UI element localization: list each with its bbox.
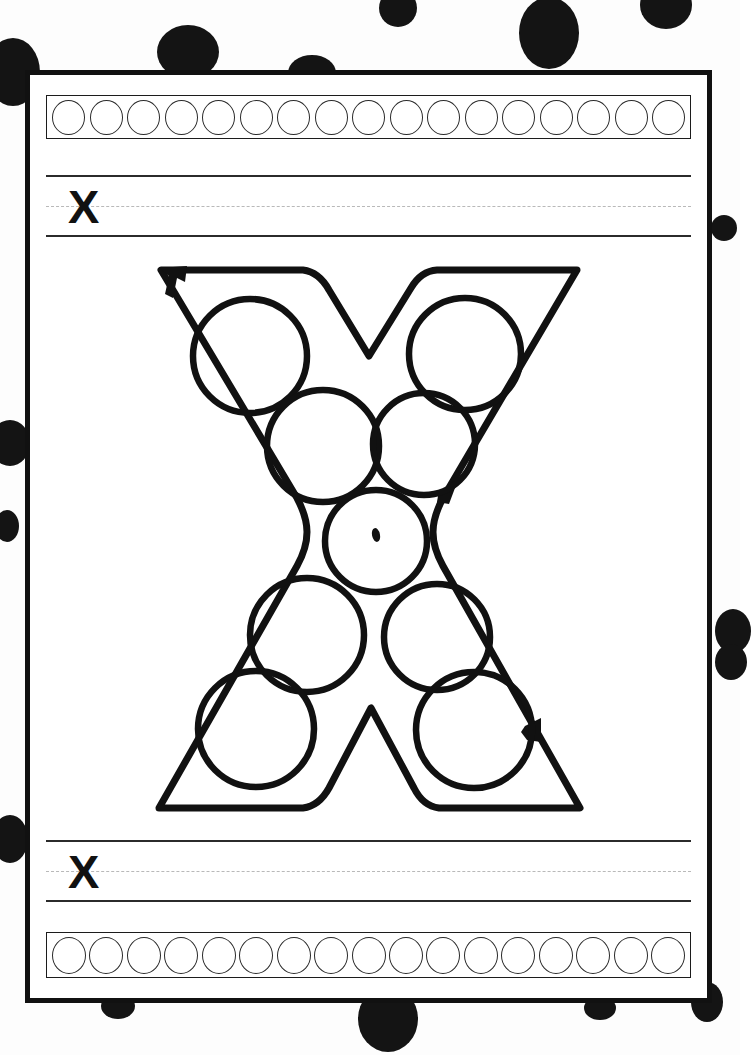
guideline-dashed-mid-bottom <box>46 871 691 872</box>
practice-dot-circle <box>577 100 610 135</box>
background-dot <box>0 815 28 863</box>
practice-dot-circle <box>240 100 273 135</box>
letter-dot-bottom-right-leg <box>416 672 532 788</box>
practice-dot-circle <box>502 100 535 135</box>
handwriting-line-bottom: X <box>46 840 691 902</box>
guideline-solid-top-bottom <box>46 840 691 842</box>
worksheet-sheet: X X <box>25 70 712 1003</box>
practice-dot-circle <box>127 937 161 974</box>
practice-dot-circle <box>165 100 198 135</box>
guideline-dashed-mid-top <box>46 206 691 207</box>
big-letter-X-outline <box>46 253 691 828</box>
background-dot <box>715 644 747 680</box>
guideline-solid-top <box>46 175 691 177</box>
practice-dot-circle <box>539 937 573 974</box>
practice-dot-circle <box>277 937 311 974</box>
guideline-solid-baseline-bottom <box>46 900 691 902</box>
practice-dot-circle <box>202 100 235 135</box>
practice-dot-circle <box>576 937 610 974</box>
practice-dot-circle <box>52 100 85 135</box>
practice-dot-circle <box>651 937 685 974</box>
letter-dot-mid-upper-left <box>267 390 379 502</box>
practice-dot-circle <box>277 100 310 135</box>
handwriting-letter-top: X <box>68 183 99 230</box>
practice-dot-circle <box>127 100 160 135</box>
background-dot <box>379 0 417 27</box>
practice-dot-circle <box>427 100 460 135</box>
practice-dot-circle <box>352 100 385 135</box>
dot-practice-strip-top <box>46 95 691 139</box>
background-dot <box>0 510 19 542</box>
background-dot <box>640 0 692 29</box>
practice-dot-circle <box>315 100 348 135</box>
practice-dot-circle <box>614 937 648 974</box>
practice-dot-circle <box>314 937 348 974</box>
dot-practice-strip-bottom <box>46 932 691 978</box>
guideline-solid-baseline-top <box>46 235 691 237</box>
practice-dot-circle <box>164 937 198 974</box>
practice-dot-circle <box>239 937 273 974</box>
letter-dot-bottom-left-leg <box>198 671 314 787</box>
practice-dot-circle <box>465 100 498 135</box>
practice-dot-circle <box>389 937 423 974</box>
background-dot <box>519 0 579 69</box>
practice-dot-circle <box>615 100 648 135</box>
practice-dot-circle <box>426 937 460 974</box>
practice-dot-circle <box>464 937 498 974</box>
practice-dot-circle <box>652 100 685 135</box>
practice-dot-circle <box>52 937 86 974</box>
practice-dot-circle <box>540 100 573 135</box>
practice-dot-circle <box>501 937 535 974</box>
practice-dot-circle <box>89 937 123 974</box>
practice-dot-circle <box>390 100 423 135</box>
background-dot <box>711 215 737 241</box>
practice-dot-circle <box>352 937 386 974</box>
handwriting-letter-bottom: X <box>68 848 99 895</box>
practice-dot-circle <box>90 100 123 135</box>
practice-dot-circle <box>202 937 236 974</box>
letter-dot-mid-upper-right <box>373 393 475 495</box>
handwriting-line-top: X <box>46 175 691 237</box>
